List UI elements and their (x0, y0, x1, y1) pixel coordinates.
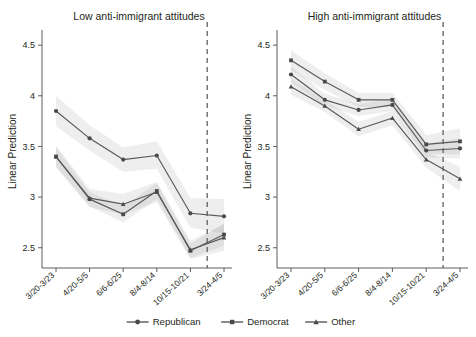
chart-legend: RepublicanDemocratOther (127, 316, 356, 327)
panel-title-low: Low anti-immigrant attitudes (73, 10, 204, 22)
y-tick-label: 3.5 (22, 142, 35, 152)
marker-republican (357, 108, 361, 112)
legend-item-republican[interactable]: Republican (127, 316, 201, 327)
legend-label-republican: Republican (153, 316, 201, 327)
ci-band-republican (56, 96, 224, 234)
x-tick-label: 3/24-4/5 (195, 270, 225, 298)
x-tick-label: 6/6-6/25 (329, 270, 359, 298)
x-tick-label: 10/15-10/21 (151, 270, 191, 308)
confidence-bands (291, 50, 460, 191)
y-tick-label: 3 (265, 192, 270, 202)
legend-item-democrat[interactable]: Democrat (221, 316, 289, 327)
x-tick-label: 3/20-3/23 (23, 270, 56, 301)
y-tick-label: 2.5 (257, 243, 270, 253)
confidence-bands (56, 96, 224, 259)
legend-marker-circle-icon (135, 320, 140, 325)
legend-item-other[interactable]: Other (305, 316, 356, 327)
panel-title-high: High anti-immigrant attitudes (308, 10, 442, 22)
marker-republican (390, 103, 394, 107)
x-tick-label: 4/20-5/5 (296, 270, 326, 298)
marker-republican (222, 214, 226, 218)
y-axis-title: Linear Prediction (242, 114, 253, 189)
x-tick-label: 4/20-5/5 (60, 270, 90, 298)
marker-republican (289, 72, 293, 76)
chart-panel-high: High anti-immigrant attitudes2.533.544.5… (242, 10, 468, 307)
legend-marker-square-icon (230, 320, 234, 324)
marker-democrat (121, 212, 125, 216)
marker-democrat (424, 143, 428, 147)
marker-democrat (323, 80, 327, 84)
marker-republican (323, 98, 327, 102)
chart-panel-low: Low anti-immigrant attitudes2.533.544.5L… (7, 10, 232, 307)
marker-republican (121, 158, 125, 162)
x-tick-label: 3/24-4/5 (431, 270, 461, 298)
y-tick-label: 3.5 (257, 142, 270, 152)
marker-republican (88, 136, 92, 140)
marker-republican (188, 211, 192, 215)
chart-figure: Low anti-immigrant attitudes2.533.544.5L… (0, 0, 476, 337)
x-tick-label: 8/4-8/14 (128, 270, 158, 298)
legend-label-other: Other (331, 316, 356, 327)
marker-republican (458, 146, 462, 150)
marker-democrat (289, 58, 293, 62)
y-tick-label: 3 (30, 192, 35, 202)
x-tick-label: 3/20-3/23 (258, 270, 291, 301)
y-tick-label: 4.5 (22, 40, 35, 50)
marker-republican (54, 109, 58, 113)
x-tick-label: 10/15-10/21 (387, 270, 427, 308)
y-axis-title: Linear Prediction (7, 114, 18, 189)
x-tick-label: 8/4-8/14 (363, 270, 393, 298)
y-tick-label: 4.5 (257, 40, 270, 50)
y-tick-label: 2.5 (22, 243, 35, 253)
marker-democrat (458, 139, 462, 143)
marker-democrat (391, 98, 395, 102)
marker-republican (424, 148, 428, 152)
x-tick-label: 6/6-6/25 (94, 270, 124, 298)
marker-democrat (357, 98, 361, 102)
y-tick-label: 4 (30, 91, 35, 101)
marker-republican (155, 153, 159, 157)
panel-chart-svg: Low anti-immigrant attitudes2.533.544.5L… (0, 0, 476, 337)
legend-label-democrat: Democrat (247, 316, 289, 327)
y-tick-label: 4 (265, 91, 270, 101)
